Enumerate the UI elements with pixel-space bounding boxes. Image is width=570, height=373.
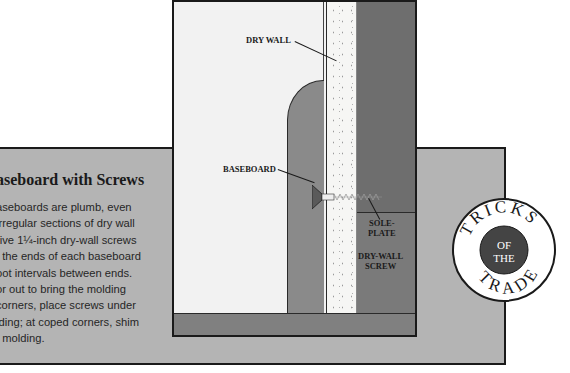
- baseboard-label: BASEBOARD: [223, 165, 276, 175]
- sole-plate-label-1: SOLE-: [369, 218, 395, 228]
- body-line: lding; at coped corners, shim: [0, 314, 168, 330]
- body-line: corners, place screws under: [0, 297, 168, 313]
- body-line: rive 1¼-inch dry-wall screws: [0, 232, 168, 248]
- body-line: or out to bring the molding: [0, 281, 168, 297]
- badge-center-of: OF: [497, 239, 511, 251]
- screw-label-2: SCREW: [365, 261, 396, 271]
- baseboard-illustration: DRY WALL BASEBOARD SOLE- PLATE DRY-WALL …: [172, 0, 417, 337]
- panel-title: aseboard with Screws: [0, 171, 144, 189]
- body-line: t the ends of each baseboard: [0, 248, 168, 264]
- dry-wall-label: DRY WALL: [246, 36, 291, 46]
- screw-label: DRY-WALL SCREW: [358, 252, 403, 271]
- panel-body: aseboards are plumb, even irregular sect…: [0, 199, 168, 347]
- sole-plate-label-2: PLATE: [368, 228, 396, 238]
- floor: [174, 313, 417, 337]
- body-line: t molding.: [0, 330, 168, 346]
- screw-label-1: DRY-WALL: [358, 251, 403, 261]
- badge-center-the: THE: [493, 252, 515, 264]
- tricks-of-the-trade-badge: TRICKS TRADE OF THE: [451, 197, 557, 303]
- body-line: oot intervals between ends.: [0, 265, 168, 281]
- body-line: aseboards are plumb, even: [0, 199, 168, 215]
- screw-icon: [312, 185, 402, 215]
- body-line: irregular sections of dry wall: [0, 215, 168, 231]
- sole-plate-label: SOLE- PLATE: [368, 219, 396, 238]
- dry-wall: [326, 2, 357, 313]
- wall-stud: [355, 2, 417, 212]
